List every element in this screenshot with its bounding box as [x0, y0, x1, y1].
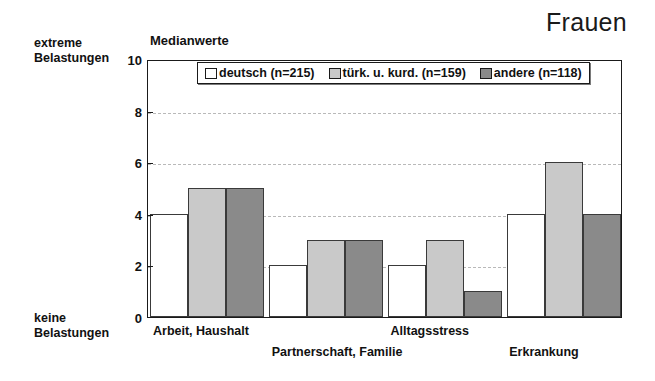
axis-pole-low-label: keine Belastungen: [34, 311, 109, 341]
y-axis-caption: Medianwerte: [150, 33, 229, 48]
legend-entry: türk. u. kurd. (n=159): [329, 66, 466, 80]
bar: [188, 188, 226, 317]
y-tick-label-0: 0: [116, 311, 142, 326]
chart-title: Frauen: [546, 8, 627, 37]
y-tick-label-8: 8: [116, 104, 142, 119]
chart-legend: deutsch (n=215)türk. u. kurd. (n=159)and…: [197, 62, 590, 84]
y-tick-label-4: 4: [116, 207, 142, 222]
axis-pole-high-label: extreme Belastungen: [34, 36, 109, 66]
y-tick-label-6: 6: [116, 156, 142, 171]
bar: [583, 214, 621, 317]
category-label: Partnerschaft, Familie: [272, 345, 403, 359]
y-tick-mark-4: [147, 215, 153, 216]
y-tick-label-2: 2: [116, 259, 142, 274]
legend-entry: deutsch (n=215): [205, 66, 315, 80]
category-label: Arbeit, Haushalt: [153, 324, 249, 338]
y-tick-mark-8: [147, 112, 153, 113]
axis-pole-high-line1: extreme: [34, 36, 109, 51]
y-tick-mark-2: [147, 266, 153, 267]
y-tick-label-10: 10: [116, 53, 142, 68]
legend-label: andere (n=118): [494, 66, 582, 80]
category-label: Erkrankung: [509, 345, 578, 359]
plot-area: [147, 60, 622, 318]
bar: [150, 214, 188, 317]
legend-label: türk. u. kurd. (n=159): [343, 66, 466, 80]
bar: [545, 162, 583, 317]
axis-pole-low-line1: keine: [34, 311, 109, 326]
legend-entry: andere (n=118): [480, 66, 582, 80]
bar: [388, 265, 426, 317]
chart-figure: Frauen Medianwerte extreme Belastungen k…: [0, 0, 655, 381]
legend-swatch-icon: [480, 68, 492, 79]
y-tick-mark-6: [147, 163, 153, 164]
legend-swatch-icon: [329, 68, 341, 79]
axis-pole-high-line2: Belastungen: [34, 51, 109, 66]
y-axis-tick-labels: 0246810: [110, 60, 142, 318]
bar: [507, 214, 545, 317]
axis-pole-low-line2: Belastungen: [34, 326, 109, 341]
bar: [345, 240, 383, 317]
bar: [226, 188, 264, 317]
category-label: Alltagsstress: [391, 324, 470, 338]
legend-swatch-icon: [205, 68, 217, 79]
bar: [464, 291, 502, 317]
bars-layer: [148, 61, 621, 317]
bar: [307, 240, 345, 317]
bar: [426, 240, 464, 317]
bar: [269, 265, 307, 317]
legend-label: deutsch (n=215): [219, 66, 315, 80]
